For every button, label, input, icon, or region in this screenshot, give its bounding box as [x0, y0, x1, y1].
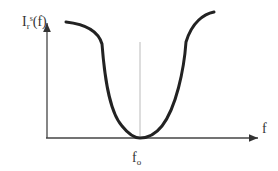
x-axis-label: f — [262, 121, 267, 137]
center-frequency-label: fo — [132, 150, 141, 167]
y-axis-label: Irs(f) — [22, 14, 47, 31]
